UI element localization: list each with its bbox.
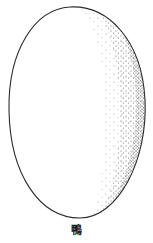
stipple-shading xyxy=(60,8,150,222)
egg-figure: 鴨 xyxy=(0,0,153,243)
egg-illustration xyxy=(0,0,153,224)
figure-caption: 鴨 xyxy=(0,224,153,238)
